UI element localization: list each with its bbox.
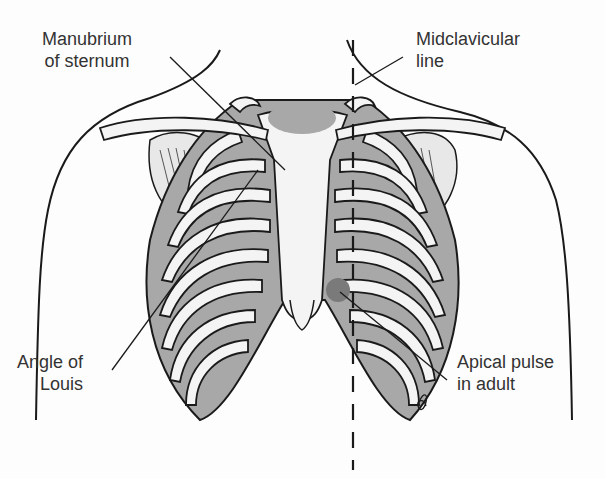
chest-anatomy-diagram: Manubrium of sternum Midclavicular line …	[0, 0, 605, 479]
label-apical-line2: in adult	[457, 373, 554, 395]
label-manubrium-line1: Manubrium	[42, 28, 132, 50]
label-manubrium-of-sternum: Manubrium of sternum	[42, 28, 132, 72]
label-apical-pulse: Apical pulse in adult	[457, 351, 554, 395]
label-manubrium-line2: of sternum	[42, 50, 132, 72]
label-angle-line2: Louis	[17, 373, 83, 395]
apical-pulse-spot	[326, 278, 350, 302]
manubrium-shade	[268, 102, 336, 134]
label-apical-line1: Apical pulse	[457, 351, 554, 373]
label-midclavicular-line2: line	[416, 50, 520, 72]
label-midclavicular-line1: Midclavicular	[416, 28, 520, 50]
label-angle-line1: Angle of	[17, 351, 83, 373]
label-midclavicular-line: Midclavicular line	[416, 28, 520, 72]
xiphoid-process	[290, 300, 314, 330]
label-angle-of-louis: Angle of Louis	[17, 351, 83, 395]
